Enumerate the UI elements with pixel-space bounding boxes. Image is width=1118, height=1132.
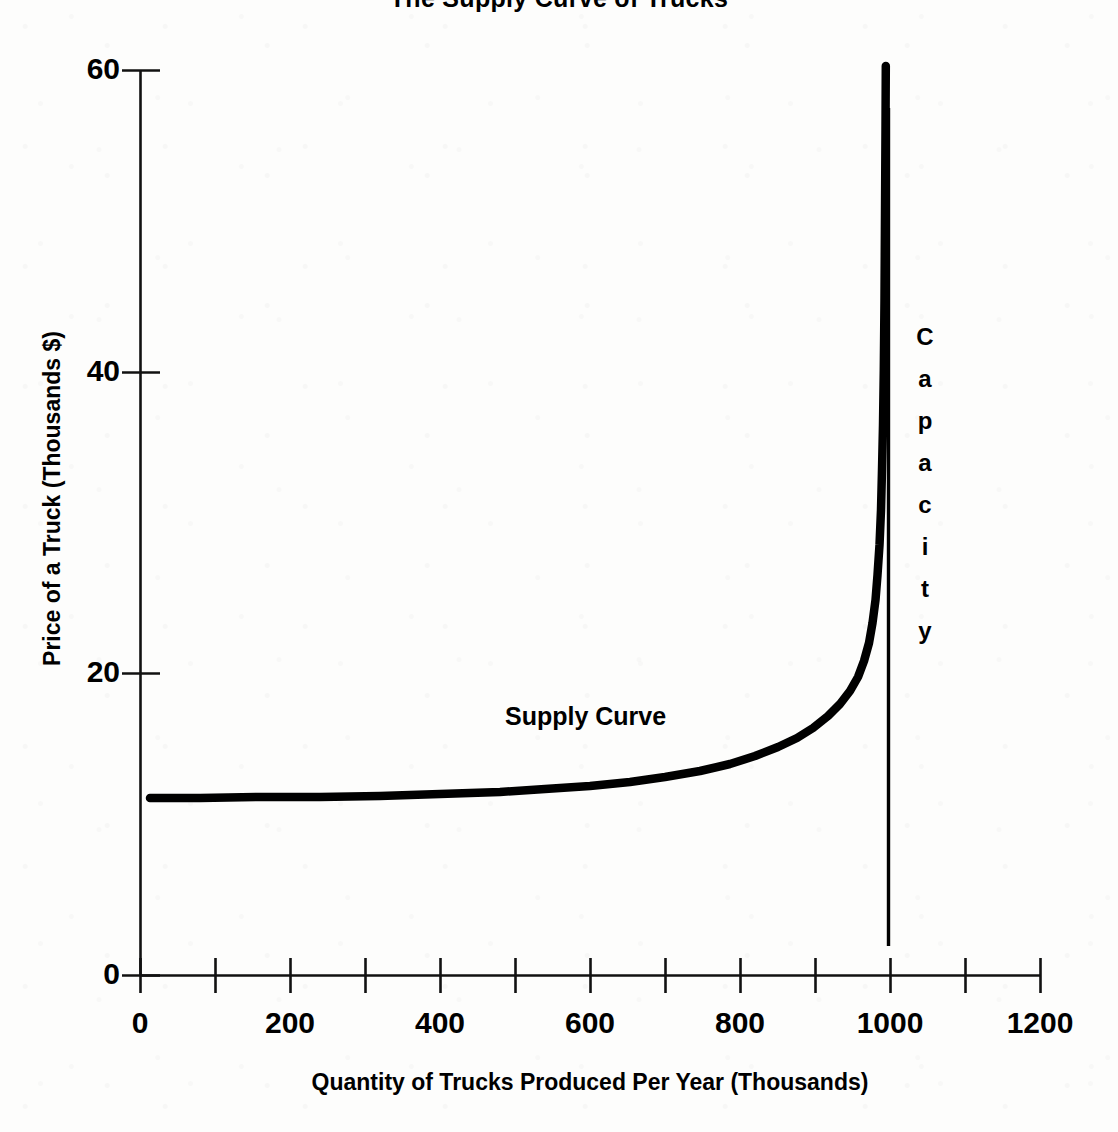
- supply-curve-path: [150, 66, 886, 798]
- x-tick-label-600: 600: [510, 1008, 670, 1038]
- y-tick-label-60: 60: [40, 54, 120, 84]
- capacity-letter-c1: C: [905, 325, 945, 349]
- capacity-letter-a1: a: [905, 367, 945, 391]
- x-tick-label-0: 0: [60, 1008, 220, 1038]
- x-tick-label-400: 400: [360, 1008, 520, 1038]
- supply-curve-annotation: Supply Curve: [505, 702, 666, 731]
- capacity-letter-c2: c: [905, 493, 945, 517]
- plot-area: [0, 0, 1118, 1132]
- x-tick-label-1000: 1000: [810, 1008, 970, 1038]
- y-axis-title: Price of a Truck (Thousands $): [39, 239, 66, 759]
- capacity-letter-y: y: [905, 619, 945, 643]
- capacity-letter-t: t: [905, 577, 945, 601]
- capacity-letter-i: i: [905, 535, 945, 559]
- x-axis-title: Quantity of Trucks Produced Per Year (Th…: [140, 1069, 1040, 1096]
- x-tick-label-1200: 1200: [960, 1008, 1118, 1038]
- y-tick-label-0: 0: [40, 959, 120, 989]
- capacity-letter-p: p: [905, 409, 945, 433]
- supply-curve-chart: The Supply Curve of Trucks: [0, 0, 1118, 1132]
- capacity-letter-a2: a: [905, 451, 945, 475]
- x-tick-label-800: 800: [660, 1008, 820, 1038]
- x-tick-label-200: 200: [210, 1008, 370, 1038]
- capacity-annotation: C a p a c i t y: [905, 325, 945, 661]
